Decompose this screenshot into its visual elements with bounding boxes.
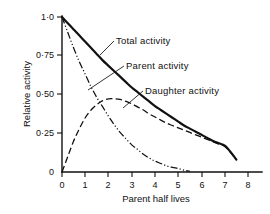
chart-figure: 1·0 0·75 0·50 0·25 0 0 1 2 3 4 5 6 7 8 T… [0, 0, 270, 214]
daughter-activity-leader-line [123, 91, 143, 108]
total-activity-label: Total activity [116, 35, 171, 46]
x-axis-title: Parent half lives [122, 193, 190, 204]
y-tick-label-0: 0 [49, 167, 54, 177]
y-axis-title: Relative activity [21, 61, 32, 127]
x-tick-label-8: 8 [245, 180, 250, 190]
y-tick-label-0-25: 0·25 [36, 128, 54, 138]
x-tick-label-4: 4 [152, 180, 157, 190]
y-axis-ticks [57, 17, 62, 133]
y-tick-label-0-50: 0·50 [36, 89, 54, 99]
parent-activity-label: Parent activity [126, 60, 189, 71]
y-tick-label-0-75: 0·75 [36, 50, 54, 60]
x-tick-label-7: 7 [222, 180, 227, 190]
daughter-activity-curve [62, 99, 236, 172]
relative-activity-line-chart: 1·0 0·75 0·50 0·25 0 0 1 2 3 4 5 6 7 8 T… [0, 0, 270, 214]
x-axis-ticks [62, 172, 248, 177]
x-tick-label-3: 3 [129, 180, 134, 190]
x-tick-label-5: 5 [175, 180, 180, 190]
total-activity-leader-line [100, 41, 114, 55]
x-tick-label-2: 2 [105, 180, 110, 190]
x-tick-label-6: 6 [199, 180, 204, 190]
parent-activity-leader-line [88, 66, 124, 90]
x-tick-label-1: 1 [82, 180, 87, 190]
x-tick-label-0: 0 [59, 180, 64, 190]
daughter-activity-label: Daughter activity [145, 85, 219, 96]
y-tick-label-1-0: 1·0 [41, 12, 54, 22]
